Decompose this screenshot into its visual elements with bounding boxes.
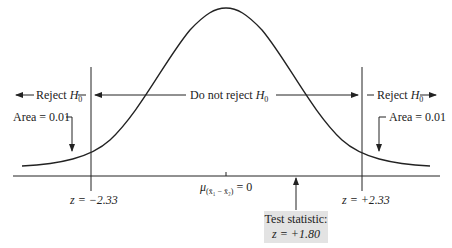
normal-curve xyxy=(22,8,430,166)
hypothesis-test-diagram: Reject H0 Do not reject H0 Reject H0 Are… xyxy=(0,0,452,248)
right-area-pointer xyxy=(379,117,386,151)
right-reject-label: Reject H0 xyxy=(377,88,423,107)
do-not-reject-label: Do not reject H0 xyxy=(190,88,268,107)
right-critical-value: z = +2.33 xyxy=(342,193,390,207)
test-statistic-value: z = +1.80 xyxy=(264,227,328,242)
left-reject-label: Reject H0 xyxy=(36,88,82,107)
right-area-label: Area = 0.01 xyxy=(389,110,446,124)
center-mean-label: μ(x̄₁ − x̄₂) = 0 xyxy=(200,180,252,199)
left-area-label: Area = 0.01 xyxy=(13,110,70,124)
left-critical-value: z = −2.33 xyxy=(70,193,118,207)
test-statistic-box: Test statistic: z = +1.80 xyxy=(264,211,328,243)
test-statistic-title: Test statistic: xyxy=(264,211,328,227)
diagram-graphics xyxy=(0,0,452,248)
